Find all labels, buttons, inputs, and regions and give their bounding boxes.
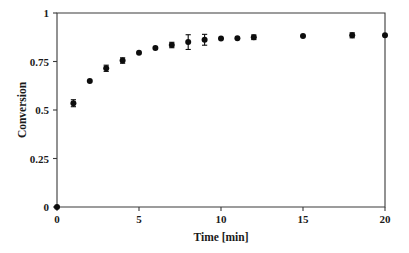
y-tick-label-075: 0.75	[30, 56, 50, 68]
data-point	[169, 42, 175, 48]
data-point	[251, 34, 257, 40]
data-point	[300, 33, 306, 39]
data-point	[349, 32, 355, 38]
data-point	[185, 39, 191, 45]
data-point	[234, 35, 240, 41]
y-tick-label-05: 0.5	[35, 104, 49, 116]
x-tick-label-15: 15	[298, 213, 310, 225]
y-axis-title: Conversion	[16, 81, 28, 138]
data-point	[136, 50, 142, 56]
data-point	[382, 32, 388, 38]
data-point	[120, 58, 126, 64]
y-tick-label-1: 1	[44, 7, 50, 19]
data-point	[218, 36, 224, 42]
x-tick-label-5: 5	[136, 213, 142, 225]
y-tick-label-025: 0.25	[30, 153, 50, 165]
x-tick-label-10: 10	[216, 213, 228, 225]
data-point	[54, 204, 60, 210]
conversion-vs-time-chart: 0 5 10 15 20 0 0.25 0.5 0.75 1 Time [min…	[0, 0, 409, 253]
data-point	[103, 65, 109, 71]
data-point	[152, 45, 158, 51]
y-tick-label-0: 0	[44, 201, 50, 213]
x-tick-label-20: 20	[380, 213, 392, 225]
x-axis-title: Time [min]	[193, 231, 248, 243]
data-point	[87, 78, 93, 84]
x-tick-label-0: 0	[54, 213, 60, 225]
data-point	[202, 37, 208, 43]
chart-svg: 0 5 10 15 20 0 0.25 0.5 0.75 1 Time [min…	[0, 0, 409, 253]
data-point	[70, 100, 76, 106]
